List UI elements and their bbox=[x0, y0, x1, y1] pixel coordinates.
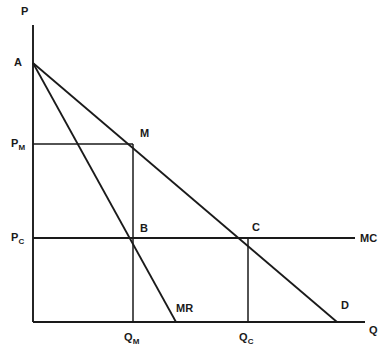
diagram-canvas bbox=[0, 0, 391, 361]
x-axis-label: Q bbox=[369, 325, 378, 336]
point-label-c: C bbox=[252, 222, 260, 233]
quantity-tick-base-qm: Q bbox=[124, 331, 133, 343]
marginal-cost-curve-label: MC bbox=[360, 233, 378, 244]
marginal-revenue-curve bbox=[33, 63, 176, 322]
point-label-b: B bbox=[140, 223, 148, 234]
marginal-revenue-curve-label: MR bbox=[176, 303, 194, 314]
demand-curve bbox=[33, 63, 337, 322]
monopoly-diagram-figure: P Q A M B C D MR MC PM PC QM QC bbox=[0, 0, 391, 361]
price-tick-label-pc: PC bbox=[11, 232, 24, 246]
point-label-m: M bbox=[140, 128, 149, 139]
quantity-tick-label-qm: QM bbox=[124, 332, 139, 346]
demand-curve-label: D bbox=[341, 300, 349, 311]
quantity-tick-sub-qm: M bbox=[133, 337, 140, 346]
y-axis-label: P bbox=[21, 6, 29, 17]
price-tick-label-pm: PM bbox=[11, 138, 25, 152]
price-tick-base-pc: P bbox=[11, 231, 19, 243]
price-tick-base-pm: P bbox=[11, 137, 19, 149]
quantity-tick-label-qc: QC bbox=[239, 332, 254, 346]
price-tick-sub-pm: M bbox=[19, 143, 26, 152]
price-tick-sub-pc: C bbox=[19, 237, 25, 246]
quantity-tick-base-qc: Q bbox=[239, 331, 248, 343]
quantity-tick-sub-qc: C bbox=[248, 337, 254, 346]
point-label-a: A bbox=[14, 57, 22, 68]
